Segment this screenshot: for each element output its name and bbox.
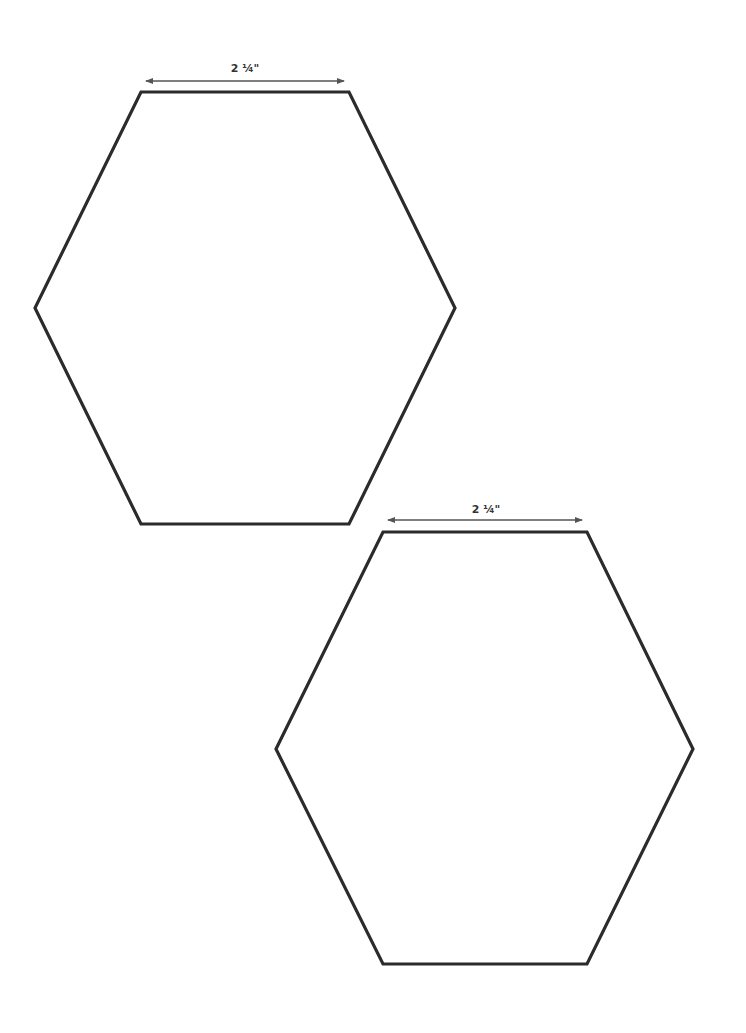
hexagon-group-bottom	[276, 520, 693, 964]
dimension-label-top: 2 ¼"	[231, 63, 260, 74]
printable-template-page: 2 ¼" 2 ¼"	[0, 0, 746, 1033]
hexagon-outline-top	[35, 92, 455, 524]
hexagon-diagram-canvas	[0, 0, 746, 1033]
hexagon-outline-bottom	[276, 532, 693, 964]
dimension-label-bottom: 2 ¼"	[472, 504, 501, 515]
hexagon-group-top	[35, 81, 455, 524]
